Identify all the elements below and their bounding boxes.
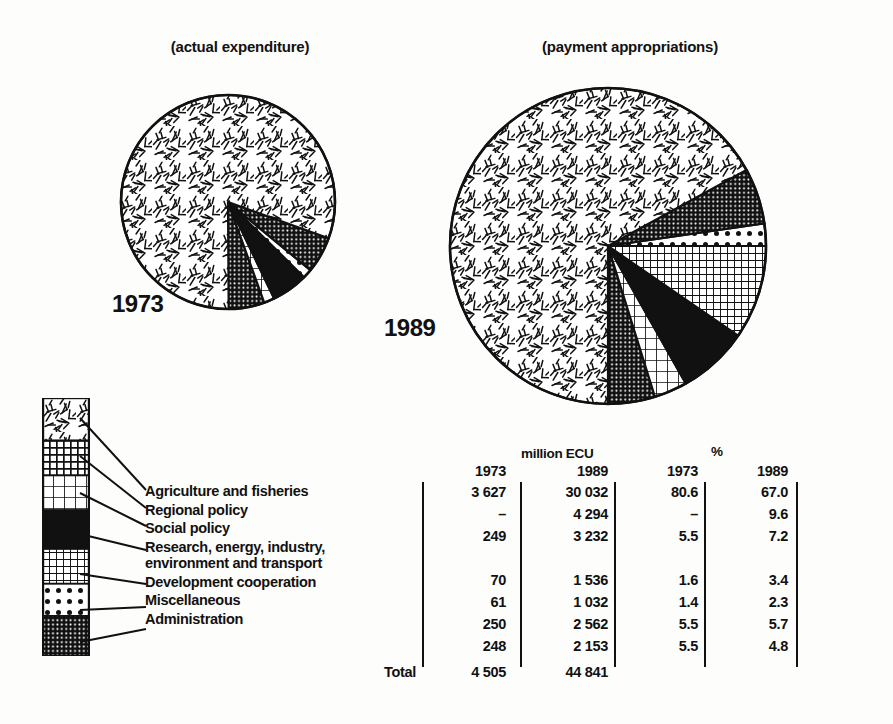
table-cell: 248 <box>438 638 506 654</box>
leader-line-2 <box>80 456 146 508</box>
table-cell: 2 153 <box>536 638 608 654</box>
chart-title-right: (payment appropriations) <box>495 38 765 55</box>
legend-item-regional-policy: Regional policy <box>145 502 405 519</box>
leader-line-3 <box>80 493 146 526</box>
table-cell: 1 032 <box>536 594 608 610</box>
table-rule-1 <box>520 482 522 667</box>
table-column-header-amount-1989: 1989 <box>536 463 608 479</box>
table-cell: 67.0 <box>720 484 788 500</box>
pie-slices <box>450 88 766 404</box>
table-cell: 70 <box>438 572 506 588</box>
table-cell: 3 232 <box>536 528 608 544</box>
table-cell: 80.6 <box>630 484 698 500</box>
table-cell: 4.8 <box>720 638 788 654</box>
pie-chart-1989 <box>447 85 769 407</box>
table-cell: 3 627 <box>438 484 506 500</box>
table-cell: 5.5 <box>630 638 698 654</box>
leader-line-4 <box>80 534 146 550</box>
table-cell: 7.2 <box>720 528 788 544</box>
table-cell: – <box>630 506 698 522</box>
table-column-header-percent-1989: 1989 <box>720 463 788 479</box>
table-cell: 250 <box>438 616 506 632</box>
table-cell: 1 536 <box>536 572 608 588</box>
table-column-header-percent-1973: 1973 <box>630 463 698 479</box>
table-cell: 2 562 <box>536 616 608 632</box>
leader-line-1 <box>80 418 146 490</box>
pie-chart-1973 <box>118 92 338 312</box>
legend-item-social-policy: Social policy <box>145 520 405 537</box>
table-cell: 5.7 <box>720 616 788 632</box>
leader-line-7 <box>80 629 146 642</box>
table-group-header-percent: % <box>711 444 723 459</box>
table-cell: 3.4 <box>720 572 788 588</box>
table-cell: 2.3 <box>720 594 788 610</box>
table-total-label: Total <box>346 664 416 680</box>
legend-item-administration: Administration <box>145 611 405 628</box>
table-cell: 249 <box>438 528 506 544</box>
legend-item-research: Research, energy, industry, environment … <box>145 539 380 572</box>
table-cell: 5.5 <box>630 528 698 544</box>
table-cell: 4 294 <box>536 506 608 522</box>
table-rule-3 <box>704 482 706 667</box>
table-cell: 5.5 <box>630 616 698 632</box>
table-cell: 9.6 <box>720 506 788 522</box>
pie-chart-1989-svg <box>447 85 769 407</box>
table-cell: 61 <box>438 594 506 610</box>
table-total-amount-1973: 4 505 <box>438 664 506 680</box>
chart-title-left: (actual expenditure) <box>125 38 355 55</box>
table-rule-0 <box>422 482 424 667</box>
leader-line-6 <box>80 607 146 610</box>
pie-chart-1973-svg <box>118 92 338 312</box>
table-cell: 30 032 <box>536 484 608 500</box>
table-rule-2 <box>614 482 616 667</box>
leader-line-5 <box>80 574 146 584</box>
table-cell: 1.4 <box>630 594 698 610</box>
data-table: million ECU % 1973 1989 1973 1989 3 6273… <box>408 446 878 681</box>
legend-item-miscellaneous: Miscellaneous <box>145 592 405 609</box>
legend-label-list: Agriculture and fisheries Regional polic… <box>145 483 405 629</box>
table-group-header-amount: million ECU <box>521 446 593 461</box>
figure-canvas: (actual expenditure) (payment appropriat… <box>0 0 893 724</box>
table-cell: 1.6 <box>630 572 698 588</box>
legend-item-agriculture: Agriculture and fisheries <box>145 483 405 500</box>
table-column-header-amount-1973: 1973 <box>438 463 506 479</box>
table-total-amount-1989: 44 841 <box>536 664 608 680</box>
table-rule-4 <box>796 482 798 667</box>
year-label-1989: 1989 <box>384 314 435 342</box>
table-cell: – <box>438 506 506 522</box>
legend-item-development-cooperation: Development cooperation <box>145 574 405 591</box>
